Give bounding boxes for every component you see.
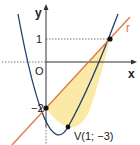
x-axis-arrow-icon [131,60,137,65]
y-axis-arrow-icon [44,4,49,10]
origin-label: O [35,65,44,77]
y-axis-label: y [35,6,42,20]
graph-canvas: y x O 1 −2 r V(1; −3) [0,0,140,145]
point-vertex [66,125,71,130]
vertex-label: V(1; −3) [74,130,113,142]
point-intersection-3-1 [107,36,112,41]
tick-label-1: 1 [36,33,42,45]
tick-label-neg2: −2 [31,102,44,114]
x-axis-label: x [128,67,135,81]
point-intersection-0-neg2 [43,105,48,110]
line-r-label: r [126,21,130,35]
shaded-region [46,39,110,127]
